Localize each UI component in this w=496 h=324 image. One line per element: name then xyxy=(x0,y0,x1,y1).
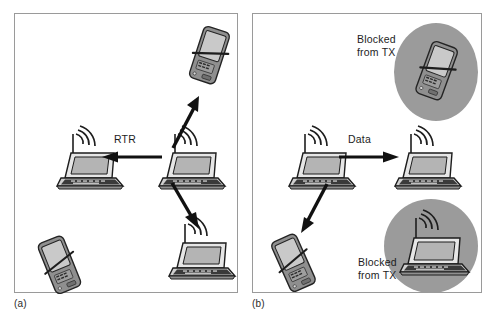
blocked-label-top-line1: Blocked xyxy=(357,33,396,46)
arrow-down-right-a xyxy=(167,179,209,231)
pda-lower-left-a xyxy=(33,232,85,298)
arrow-rtr-left-a xyxy=(102,150,164,164)
panel-caption-a: (a) xyxy=(14,298,27,309)
blocked-label-bottom-line1: Blocked xyxy=(358,256,397,269)
panel-a: RTR xyxy=(14,13,238,293)
antenna-waves-icon xyxy=(411,126,433,156)
figure-wireless-rtr-data: RTR xyxy=(0,0,496,324)
arrow-down-left-b xyxy=(291,180,337,236)
blocked-label-top: Blocked from TX xyxy=(357,33,396,58)
laptop-lower-right-b xyxy=(392,204,472,278)
antenna-waves-icon xyxy=(305,126,327,156)
panel-b: Blocked from TX xyxy=(252,13,482,293)
antenna-waves-icon xyxy=(416,210,438,242)
panel-caption-b: (b) xyxy=(252,298,265,309)
antenna-waves-icon xyxy=(73,126,95,156)
pda-lower-left-b xyxy=(267,230,319,296)
flow-label-rtr: RTR xyxy=(114,133,136,145)
laptop-receiver-b xyxy=(389,122,463,190)
arrow-up-right-a xyxy=(165,92,209,152)
pda-upper-right-a xyxy=(183,22,235,88)
blocked-label-bottom: Blocked from TX xyxy=(358,256,397,281)
pda-upper-right-b xyxy=(410,36,462,106)
blocked-label-top-line2: from TX xyxy=(357,46,396,59)
flow-label-data: Data xyxy=(348,133,371,145)
blocked-label-bottom-line2: from TX xyxy=(358,269,397,282)
arrow-data-right-b xyxy=(337,150,399,164)
